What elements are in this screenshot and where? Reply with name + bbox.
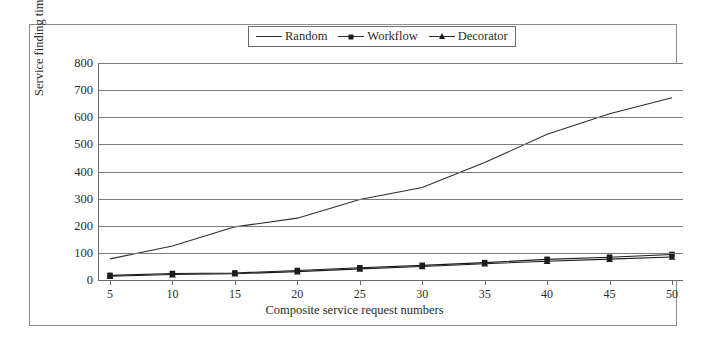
gridline	[99, 253, 683, 254]
square-marker-icon	[349, 34, 354, 39]
x-tick-label: 25	[354, 287, 366, 302]
y-tick-label: 600	[74, 110, 93, 125]
legend-label: Decorator	[458, 30, 508, 43]
x-tick	[235, 280, 236, 285]
y-tick-label: 200	[74, 218, 93, 233]
y-tick-label: 100	[74, 245, 93, 260]
legend-label: Random	[285, 30, 327, 43]
gridline	[99, 199, 683, 200]
y-tick-label: 0	[87, 273, 93, 288]
triangle-marker-icon	[439, 33, 445, 39]
x-axis-title: Composite service request numbers	[0, 303, 709, 318]
y-tick-label: 800	[74, 56, 93, 71]
gridline	[99, 144, 683, 145]
x-tick-label: 45	[604, 287, 616, 302]
gridline	[99, 172, 683, 173]
x-tick-label: 20	[291, 287, 303, 302]
x-tick	[360, 280, 361, 285]
x-tick-label: 50	[666, 287, 678, 302]
chart-legend: RandomWorkflowDecorator	[248, 26, 516, 47]
x-tick	[172, 280, 173, 285]
x-tick-label: 40	[541, 287, 553, 302]
gridline	[99, 226, 683, 227]
y-tick-label: 300	[74, 191, 93, 206]
series-line	[110, 255, 672, 276]
gridline	[99, 117, 683, 118]
plot-area: 0100200300400500600700800510152025303540…	[98, 63, 683, 281]
legend-swatch-decorator-icon	[429, 31, 455, 42]
x-tick-label: 35	[479, 287, 491, 302]
legend-swatch-workflow-icon	[338, 31, 364, 42]
x-tick	[672, 280, 673, 285]
legend-item-random: Random	[256, 30, 327, 43]
gridline	[99, 90, 683, 91]
series-line	[110, 98, 672, 259]
y-axis-title: Service finding time (s)	[32, 0, 47, 96]
x-tick	[610, 280, 611, 285]
legend-label: Workflow	[367, 30, 417, 43]
x-tick-label: 30	[416, 287, 428, 302]
legend-item-decorator: Decorator	[429, 30, 508, 43]
chart-figure: RandomWorkflowDecorator Service finding …	[0, 0, 709, 357]
x-tick-label: 15	[229, 287, 241, 302]
legend-swatch-random-icon	[256, 31, 282, 42]
x-tick	[485, 280, 486, 285]
y-tick-label: 700	[74, 83, 93, 98]
y-tick-label: 500	[74, 137, 93, 152]
x-tick	[547, 280, 548, 285]
gridline	[99, 63, 683, 64]
x-tick-label: 10	[166, 287, 178, 302]
legend-item-workflow: Workflow	[338, 30, 417, 43]
x-tick	[110, 280, 111, 285]
x-tick	[422, 280, 423, 285]
y-tick-label: 400	[74, 164, 93, 179]
x-tick-label: 5	[107, 287, 113, 302]
series-random	[110, 98, 672, 259]
x-tick	[297, 280, 298, 285]
